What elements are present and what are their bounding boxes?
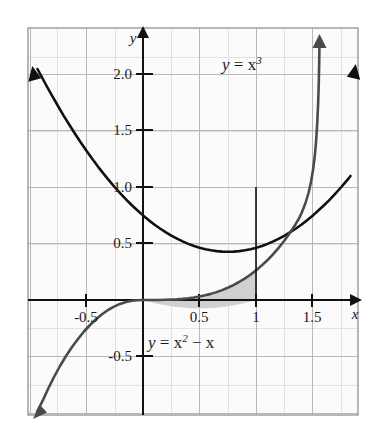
y-tick-label-2.0: 2.0 bbox=[113, 66, 132, 82]
y-axis-label: y bbox=[128, 30, 137, 46]
cubic-label-exponent: 3 bbox=[255, 54, 262, 66]
y-tick-label-0.5: 0.5 bbox=[113, 235, 132, 251]
cubic-label-eq: = x bbox=[230, 55, 257, 74]
graph-figure: 2.0 1.5 1.0 0.5 -0.5 -0.5 0.5 1 1.5 y x … bbox=[0, 0, 383, 429]
svg-text:y = x2 − x: y = x2 − x bbox=[146, 332, 215, 352]
x-tick-label-0.5: 0.5 bbox=[190, 309, 209, 325]
parabola-label-eq: = x bbox=[156, 333, 183, 352]
x-tick-label-1.5: 1.5 bbox=[303, 309, 322, 325]
x-tick-label-1: 1 bbox=[252, 309, 260, 325]
parabola-label-tail: − x bbox=[188, 333, 215, 352]
svg-text:y = x3: y = x3 bbox=[220, 54, 262, 74]
y-tick-label-neg0.5: -0.5 bbox=[108, 348, 132, 364]
cubic-label-y: y bbox=[220, 55, 230, 74]
cubic-curve-label: y = x3 bbox=[220, 54, 262, 74]
x-axis-label: x bbox=[351, 306, 359, 322]
coordinate-plane-svg: 2.0 1.5 1.0 0.5 -0.5 -0.5 0.5 1 1.5 y x … bbox=[0, 0, 383, 429]
plot-background bbox=[28, 28, 358, 415]
parabola-label-y: y bbox=[146, 333, 156, 352]
parabola-curve-label: y = x2 − x bbox=[146, 332, 215, 352]
x-tick-label-neg0.5: -0.5 bbox=[74, 309, 98, 325]
y-tick-label-1.5: 1.5 bbox=[113, 122, 132, 138]
y-tick-label-1.0: 1.0 bbox=[113, 179, 132, 195]
